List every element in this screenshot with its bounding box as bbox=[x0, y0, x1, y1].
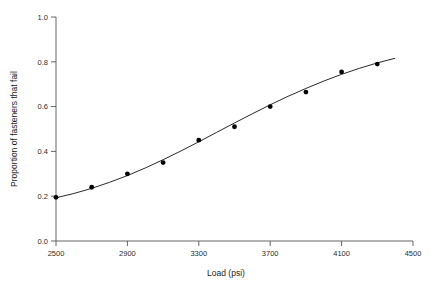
x-axis-ticks bbox=[56, 241, 413, 246]
data-point bbox=[232, 124, 237, 129]
data-point bbox=[196, 138, 201, 143]
chart-figure: 1.0 0.8 0.6 0.4 0.2 0.0 2500 2900 3300 3… bbox=[0, 0, 437, 289]
x-tick-label: 4500 bbox=[405, 249, 422, 258]
y-tick-label: 0.4 bbox=[38, 147, 48, 156]
y-axis-tick-labels: 1.0 0.8 0.6 0.4 0.2 0.0 bbox=[38, 13, 48, 246]
data-point bbox=[375, 62, 380, 67]
x-axis-tick-labels: 2500 2900 3300 3700 4100 4500 bbox=[48, 249, 422, 258]
data-point bbox=[339, 69, 344, 74]
fitted-logistic-curve bbox=[56, 58, 395, 198]
scatter-plot-canvas: 1.0 0.8 0.6 0.4 0.2 0.0 2500 2900 3300 3… bbox=[0, 0, 437, 289]
data-point bbox=[125, 171, 130, 176]
data-point bbox=[304, 90, 309, 95]
y-tick-label: 0.2 bbox=[38, 192, 48, 201]
x-tick-label: 3300 bbox=[190, 249, 207, 258]
data-point bbox=[268, 104, 273, 109]
x-axis-title: Load (psi) bbox=[207, 268, 245, 278]
y-tick-label: 0.6 bbox=[38, 102, 48, 111]
data-point bbox=[54, 195, 59, 200]
x-tick-label: 4100 bbox=[333, 249, 350, 258]
x-tick-label: 2500 bbox=[48, 249, 65, 258]
x-tick-label: 3700 bbox=[262, 249, 279, 258]
y-tick-label: 0.8 bbox=[38, 58, 48, 67]
y-tick-label: 0.0 bbox=[38, 237, 48, 246]
data-point-group bbox=[54, 62, 380, 200]
y-tick-label: 1.0 bbox=[38, 13, 48, 22]
y-axis-title: Proportion of fasteners that fail bbox=[9, 71, 19, 187]
y-axis-ticks bbox=[51, 17, 56, 241]
x-tick-label: 2900 bbox=[119, 249, 136, 258]
data-point bbox=[161, 160, 166, 165]
data-point bbox=[89, 185, 94, 190]
